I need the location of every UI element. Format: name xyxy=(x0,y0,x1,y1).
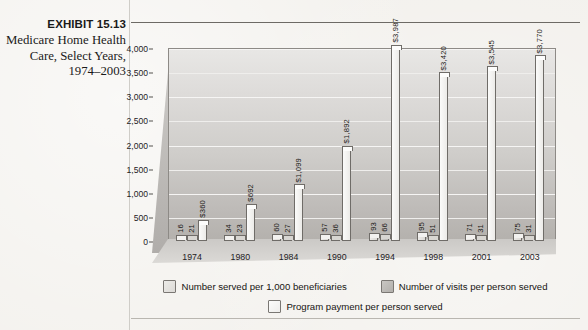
bar-3-1984[interactable] xyxy=(294,188,303,241)
bottom-horizontal-rule xyxy=(131,318,580,319)
bar-2-1980[interactable] xyxy=(235,239,244,242)
y-axis-tick-label: 2,000 xyxy=(126,141,148,151)
x-axis-tick-label: 1980 xyxy=(231,252,251,262)
bar-2-1974[interactable] xyxy=(187,239,196,242)
legend-swatch-icon-0 xyxy=(163,280,176,293)
bar-value-label: 66 xyxy=(381,223,389,232)
bar-1-2001[interactable] xyxy=(465,238,474,241)
bar-value-label: 31 xyxy=(525,224,533,233)
bar-top-cap xyxy=(417,232,428,237)
legend-label-0: Number served per 1,000 beneficiaries xyxy=(181,281,346,292)
bar-top-cap xyxy=(342,146,353,151)
bar-top-cap xyxy=(465,234,476,239)
legend-label-1: Number of visits per person served xyxy=(399,281,548,292)
bar-top-cap xyxy=(487,66,498,71)
legend-swatch-icon-1 xyxy=(381,280,394,293)
bar-top-cap xyxy=(246,204,257,209)
bar-group: 7131$3,545 xyxy=(458,48,506,241)
bar-top-cap xyxy=(283,235,294,240)
bar-face xyxy=(439,76,448,241)
exhibit-page: EXHIBIT 15.13 Medicare Home Health Care,… xyxy=(0,0,588,330)
bar-3-2003[interactable] xyxy=(535,59,544,241)
bar-top-cap xyxy=(391,45,402,50)
y-axis-tick-label: 3,000 xyxy=(126,92,148,102)
bar-value-label: 16 xyxy=(177,224,185,233)
bar-group: 6027$1,099 xyxy=(265,48,313,241)
bar-1-1998[interactable] xyxy=(417,236,426,241)
bar-top-cap xyxy=(513,233,524,238)
bar-top-cap xyxy=(224,235,235,240)
bar-value-label: 60 xyxy=(273,223,281,232)
bar-value-label: $3,420 xyxy=(440,46,448,70)
bar-2-1994[interactable] xyxy=(380,238,389,241)
bar-value-label: 51 xyxy=(429,224,437,233)
bar-3-1974[interactable] xyxy=(198,224,207,241)
bar-top-cap xyxy=(320,234,331,239)
x-axis-tick-label: 1998 xyxy=(424,252,444,262)
bar-1-1980[interactable] xyxy=(224,239,233,242)
x-axis-tick-label: 1984 xyxy=(279,252,299,262)
bar-3-1998[interactable] xyxy=(439,76,448,241)
y-axis-tick-label: 3,500 xyxy=(126,68,148,78)
x-axis-tick-label: 1994 xyxy=(375,252,395,262)
bar-value-label: $692 xyxy=(247,184,255,202)
bar-top-cap xyxy=(524,235,535,240)
bar-value-label: 27 xyxy=(284,224,292,233)
bar-1-1984[interactable] xyxy=(272,238,281,241)
bar-value-label: 23 xyxy=(236,224,244,233)
bar-1-1990[interactable] xyxy=(320,238,329,241)
exhibit-number-label: EXHIBIT 15.13 xyxy=(4,18,126,30)
bar-value-label: 34 xyxy=(225,224,233,233)
chart-side-wall xyxy=(152,60,169,253)
y-axis-tick-label: 0 xyxy=(143,237,148,247)
bar-3-1990[interactable] xyxy=(342,150,351,241)
legend-swatch-icon-2 xyxy=(268,300,281,313)
x-axis-tick-label: 1990 xyxy=(327,252,347,262)
bar-top-cap xyxy=(272,234,283,239)
bar-value-label: $360 xyxy=(199,200,207,218)
bar-value-label: $3,987 xyxy=(392,18,400,42)
bar-value-label: $1,892 xyxy=(343,119,351,143)
bar-face xyxy=(342,150,351,241)
bar-top-cap xyxy=(235,235,246,240)
bar-3-2001[interactable] xyxy=(487,70,496,241)
bar-top-cap xyxy=(331,235,342,240)
bar-2-1998[interactable] xyxy=(428,239,437,242)
y-axis-tick-label: 2,500 xyxy=(126,116,148,126)
bar-value-label: $3,545 xyxy=(488,40,496,64)
legend-item-0[interactable]: Number served per 1,000 beneficiaries xyxy=(163,280,346,293)
x-axis-tick-label: 1974 xyxy=(182,252,202,262)
bar-value-label: 31 xyxy=(477,224,485,233)
bar-value-label: 21 xyxy=(188,224,196,233)
bar-top-cap xyxy=(535,55,546,60)
bar-group: 5736$1,892 xyxy=(313,48,361,241)
bar-1-1994[interactable] xyxy=(369,237,378,241)
bar-face xyxy=(294,188,303,241)
bar-group: 1621$360 xyxy=(168,48,216,241)
bar-2-1990[interactable] xyxy=(331,239,340,242)
bar-3-1994[interactable] xyxy=(391,49,400,241)
bar-1-1974[interactable] xyxy=(176,239,185,242)
legend-row-bottom: Program payment per person served xyxy=(131,298,580,314)
bar-value-label: 36 xyxy=(332,224,340,233)
y-axis: 05001,0001,5002,0002,5003,0003,5004,000 xyxy=(96,48,148,242)
x-axis-tick-label: 2003 xyxy=(520,252,540,262)
bar-group: 9551$3,420 xyxy=(409,48,457,241)
y-axis-tick-label: 1,500 xyxy=(126,165,148,175)
legend-item-1[interactable]: Number of visits per person served xyxy=(381,280,548,293)
bar-top-cap xyxy=(294,184,305,189)
bar-face xyxy=(198,224,207,241)
bar-top-cap xyxy=(176,235,187,240)
bar-2-1984[interactable] xyxy=(283,239,292,242)
bar-group: 9366$3,987 xyxy=(361,48,409,241)
legend-item-2[interactable]: Program payment per person served xyxy=(268,300,442,313)
bar-2-2001[interactable] xyxy=(476,239,485,242)
bar-value-label: 75 xyxy=(514,223,522,232)
bar-2-2003[interactable] xyxy=(524,239,533,242)
bar-top-cap xyxy=(369,233,380,238)
legend-label-2: Program payment per person served xyxy=(286,301,442,312)
bar-top-cap xyxy=(428,235,439,240)
bar-1-2003[interactable] xyxy=(513,237,522,241)
bar-value-label: 93 xyxy=(370,222,378,231)
bar-3-1980[interactable] xyxy=(246,208,255,241)
